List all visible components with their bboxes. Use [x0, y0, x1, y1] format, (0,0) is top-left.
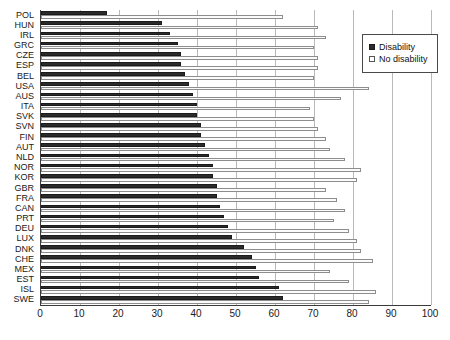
x-tick-label: 30: [151, 308, 162, 320]
bar-disability: [41, 194, 217, 198]
bar-no-disability: [41, 46, 314, 50]
bar-disability: [41, 82, 189, 86]
y-tick-label-svk: SVK: [16, 112, 34, 121]
bar-group: [41, 21, 431, 29]
legend-item-no-disability: No disability: [369, 54, 431, 64]
bar-disability: [41, 215, 224, 219]
legend-label-no-disability: No disability: [379, 54, 428, 64]
bar-disability: [41, 21, 162, 25]
bar-no-disability: [41, 249, 361, 253]
bar-group: [41, 205, 431, 213]
bar-disability: [41, 286, 279, 290]
bar-no-disability: [41, 107, 310, 111]
bar-group: [41, 255, 431, 263]
x-tick-label: 60: [268, 308, 279, 320]
y-tick-label-aus: AUS: [15, 92, 34, 101]
bar-no-disability: [41, 188, 326, 192]
bar-no-disability: [41, 259, 373, 263]
y-tick-label-esp: ESP: [16, 61, 34, 70]
bar-no-disability: [41, 137, 326, 141]
bar-group: [41, 123, 431, 131]
bar-group: [41, 194, 431, 202]
y-tick-label-can: CAN: [15, 204, 34, 213]
y-tick-label-gbr: GBR: [14, 184, 34, 193]
y-tick-label-lux: LUX: [16, 234, 34, 243]
category-axis-labels: POLHUNIRLGRCCZEESPBELUSAAUSITASVKSVNFINA…: [0, 10, 37, 305]
bar-no-disability: [41, 56, 318, 60]
bar-disability: [41, 154, 209, 158]
y-tick-label-fin: FIN: [20, 133, 35, 142]
value-axis-labels: 0102030405060708090100: [40, 308, 430, 324]
bar-no-disability: [41, 168, 361, 172]
bar-group: [41, 286, 431, 294]
bar-disability: [41, 133, 201, 137]
y-tick-label-deu: DEU: [15, 224, 34, 233]
bar-disability: [41, 103, 197, 107]
bar-disability: [41, 235, 232, 239]
bar-disability: [41, 266, 256, 270]
y-tick-label-che: CHE: [15, 255, 34, 264]
x-tick-label: 20: [112, 308, 123, 320]
bar-no-disability: [41, 117, 314, 121]
bar-disability: [41, 42, 178, 46]
bar-disability: [41, 113, 197, 117]
bar-disability: [41, 276, 259, 280]
y-tick-label-ita: ITA: [21, 102, 34, 111]
y-tick-label-svn: SVN: [15, 122, 34, 131]
bar-disability: [41, 93, 193, 97]
bar-disability: [41, 184, 217, 188]
x-tick-label: 100: [422, 308, 439, 320]
bar-disability: [41, 255, 252, 259]
bar-no-disability: [41, 229, 349, 233]
y-tick-label-fra: FRA: [16, 194, 34, 203]
bar-no-disability: [41, 290, 376, 294]
open-square-icon: [369, 56, 375, 62]
bar-disability: [41, 225, 228, 229]
y-tick-label-nor: NOR: [14, 163, 34, 172]
bar-group: [41, 93, 431, 101]
y-tick-label-est: EST: [16, 275, 34, 284]
bar-no-disability: [41, 209, 345, 213]
y-tick-label-kor: KOR: [14, 173, 34, 182]
bar-group: [41, 266, 431, 274]
y-tick-label-prt: PRT: [16, 214, 34, 223]
bar-disability: [41, 296, 283, 300]
x-tick-label: 90: [385, 308, 396, 320]
bar-no-disability: [41, 239, 357, 243]
bar-disability: [41, 11, 107, 15]
bar-disability: [41, 72, 185, 76]
x-tick-label: 40: [190, 308, 201, 320]
legend-item-disability: Disability: [369, 42, 431, 52]
bar-no-disability: [41, 148, 330, 152]
bar-no-disability: [41, 300, 369, 304]
bar-disability: [41, 143, 205, 147]
x-tick-label: 50: [229, 308, 240, 320]
bar-disability: [41, 164, 213, 168]
y-tick-label-cze: CZE: [16, 51, 34, 60]
bar-disability: [41, 52, 181, 56]
y-tick-label-aut: AUT: [16, 143, 34, 152]
bar-group: [41, 113, 431, 121]
bar-no-disability: [41, 158, 345, 162]
bar-no-disability: [41, 76, 314, 80]
bar-disability: [41, 123, 201, 127]
bar-group: [41, 245, 431, 253]
bar-group: [41, 72, 431, 80]
y-tick-label-bel: BEL: [17, 72, 34, 81]
bar-group: [41, 154, 431, 162]
y-tick-label-usa: USA: [15, 82, 34, 91]
bar-group: [41, 276, 431, 284]
bar-disability: [41, 174, 213, 178]
x-tick-label: 0: [37, 308, 43, 320]
bar-group: [41, 215, 431, 223]
bar-no-disability: [41, 219, 334, 223]
bar-no-disability: [41, 87, 369, 91]
bar-no-disability: [41, 127, 318, 131]
bar-group: [41, 174, 431, 182]
chart-legend: Disability No disability: [362, 34, 438, 73]
bar-no-disability: [41, 15, 283, 19]
legend-label-disability: Disability: [379, 42, 415, 52]
y-tick-label-hun: HUN: [15, 21, 35, 30]
bar-group: [41, 103, 431, 111]
bar-no-disability: [41, 198, 337, 202]
